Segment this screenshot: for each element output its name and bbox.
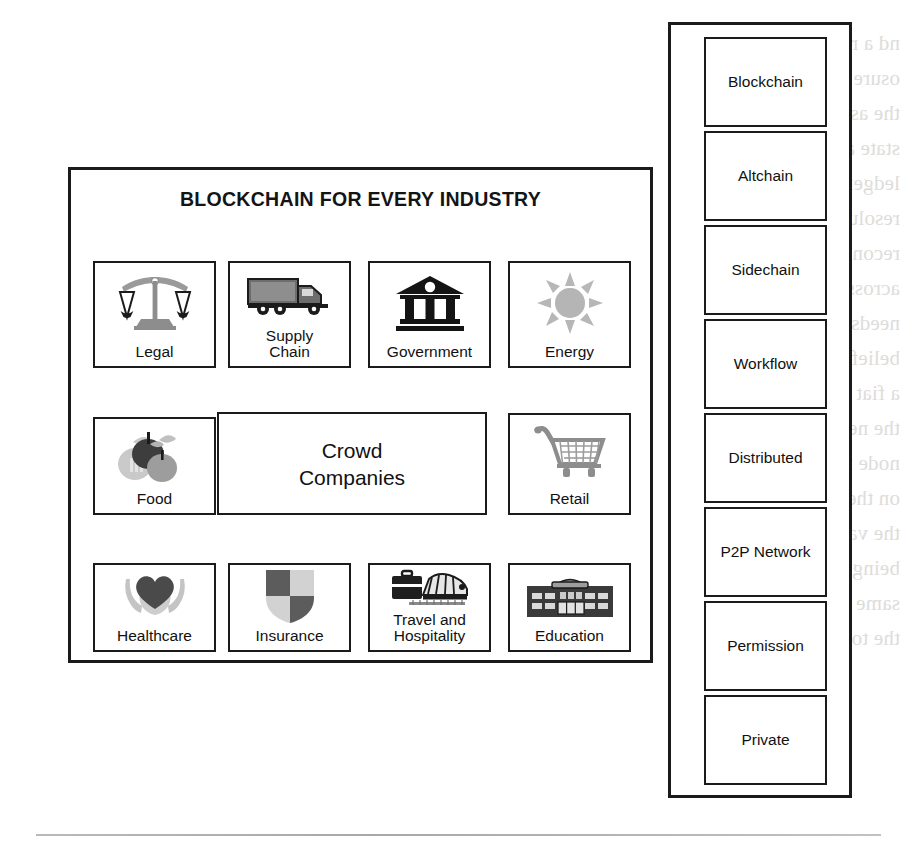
industry-cell-label: Education [535, 627, 604, 644]
type-item-workflow[interactable]: Workflow [704, 319, 827, 409]
industry-cell-label: Insurance [255, 627, 323, 644]
page-footer-rule [36, 834, 881, 836]
type-item-private[interactable]: Private [704, 695, 827, 785]
briefcase-train-icon [370, 565, 489, 612]
type-item-permission[interactable]: Permission [704, 601, 827, 691]
type-item-label: Blockchain [728, 73, 803, 91]
classical-bank-building-icon [370, 263, 489, 343]
industry-cell-food[interactable]: Food [93, 417, 216, 515]
delivery-truck-icon [230, 263, 349, 328]
industry-cell-crowd-companies[interactable]: Crowd Companies [217, 412, 487, 515]
blockchain-type-panel: Blockchain Altchain Sidechain Workflow D… [668, 22, 852, 798]
industry-cell-healthcare[interactable]: Healthcare [93, 563, 216, 652]
industry-cell-label: Crowd Companies [299, 437, 405, 491]
shopping-cart-icon [510, 415, 629, 490]
heart-in-hands-icon [95, 565, 214, 627]
scales-of-justice-icon [95, 263, 214, 343]
type-item-distributed[interactable]: Distributed [704, 413, 827, 503]
industry-cell-travel-hospitality[interactable]: Travel and Hospitality [368, 563, 491, 652]
type-item-blockchain[interactable]: Blockchain [704, 37, 827, 127]
industry-cell-label: Legal [136, 343, 174, 360]
type-item-label: P2P Network [720, 543, 810, 561]
industry-cell-legal[interactable]: Legal [93, 261, 216, 368]
type-item-altchain[interactable]: Altchain [704, 131, 827, 221]
industry-cell-supply-chain[interactable]: Supply Chain [228, 261, 351, 368]
industry-cell-label: Supply Chain [266, 328, 313, 360]
type-item-label: Altchain [738, 167, 793, 185]
industry-cell-government[interactable]: Government [368, 261, 491, 368]
industry-cell-label: Energy [545, 343, 594, 360]
school-building-icon [510, 565, 629, 627]
blockchain-type-list: Blockchain Altchain Sidechain Workflow D… [704, 37, 827, 785]
page-title: BLOCKCHAIN FOR EVERY INDUSTRY [71, 188, 650, 211]
type-item-p2p-network[interactable]: P2P Network [704, 507, 827, 597]
industry-cell-label: Government [387, 343, 472, 360]
industry-cell-label: Travel and Hospitality [393, 612, 466, 644]
type-item-label: Workflow [734, 355, 797, 373]
industry-panel: BLOCKCHAIN FOR EVERY INDUSTRY Legal [68, 167, 653, 663]
type-item-label: Permission [727, 637, 804, 655]
industry-cell-label: Healthcare [117, 627, 192, 644]
industry-cell-education[interactable]: Education [508, 563, 631, 652]
type-item-label: Sidechain [731, 261, 799, 279]
shield-icon [230, 565, 349, 627]
industry-cell-label: Food [137, 490, 172, 507]
industry-cell-retail[interactable]: Retail [508, 413, 631, 515]
industry-cell-energy[interactable]: Energy [508, 261, 631, 368]
sun-icon [510, 263, 629, 343]
type-item-label: Private [741, 731, 789, 749]
industry-cell-label: Retail [550, 490, 590, 507]
industry-cell-insurance[interactable]: Insurance [228, 563, 351, 652]
fruit-apple-icon [95, 419, 214, 490]
type-item-sidechain[interactable]: Sidechain [704, 225, 827, 315]
type-item-label: Distributed [728, 449, 802, 467]
